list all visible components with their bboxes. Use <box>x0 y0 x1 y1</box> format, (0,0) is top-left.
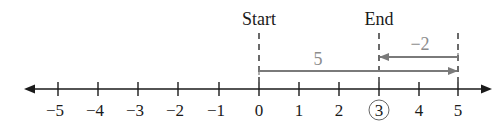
tick-label: −3 <box>126 101 144 120</box>
right-arrowhead-icon <box>481 85 492 94</box>
vector-label-5: 5 <box>314 49 323 69</box>
tick-label: −5 <box>46 101 64 120</box>
axis <box>24 85 492 94</box>
end-label: End <box>365 9 394 29</box>
left-arrowhead-icon <box>24 85 35 94</box>
tick-label: −1 <box>207 101 225 120</box>
tick-label-highlighted: 3 <box>375 101 384 120</box>
tick-label: 4 <box>415 101 424 120</box>
tick-label: 0 <box>255 101 264 120</box>
vector-label-minus-2: −2 <box>410 34 429 54</box>
number-line-diagram: −5 −4 −3 −2 −1 0 1 2 3 4 5 Start End 5 −… <box>0 0 495 129</box>
vector-minus-2 <box>380 53 458 61</box>
tick-label: 1 <box>295 101 304 120</box>
start-label: Start <box>242 9 276 29</box>
vector-plus-5 <box>259 67 457 75</box>
tick-label: 5 <box>454 101 463 120</box>
tick-label: −4 <box>86 101 105 120</box>
tick-label: −2 <box>166 101 184 120</box>
tick-label: 2 <box>335 101 344 120</box>
